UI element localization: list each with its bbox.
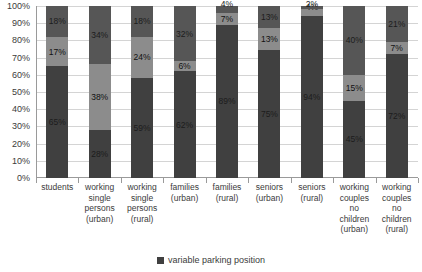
bar-segment-label: 13%	[261, 35, 278, 44]
bar-slot: 75%13%13%	[248, 6, 290, 178]
x-axis-category-label: families (rural)	[206, 182, 248, 248]
bar-segment[interactable]: 17%	[46, 37, 68, 66]
bar-segment[interactable]: 59%	[131, 78, 153, 178]
chart-legend: variable parking position	[0, 252, 422, 268]
bar-segment-label: 15%	[346, 83, 363, 92]
y-axis-tick-label: 70%	[12, 53, 30, 62]
bar-segment-label: 7%	[221, 14, 233, 23]
bar-segment-label: 13%	[261, 13, 278, 22]
x-axis-labels: studentsworking single persons (urban)wo…	[36, 182, 418, 248]
x-axis-tick	[418, 178, 419, 183]
y-axis-tick-label: 100%	[7, 2, 30, 11]
bar-segment[interactable]: 18%	[46, 6, 68, 37]
stacked-bar[interactable]: 72%7%21%	[386, 6, 408, 178]
bar-slot: 65%17%18%	[36, 6, 78, 178]
bar-segment[interactable]: 94%	[301, 16, 323, 178]
stacked-bar-chart: 100%90%80%70%60%50%40%30%20%10%0% 65%17%…	[0, 0, 422, 272]
y-axis-tick-label: 50%	[12, 88, 30, 97]
bar-segment-label: 75%	[261, 110, 278, 119]
bar-segment-label: 18%	[134, 17, 151, 26]
y-axis-tick-label: 0%	[17, 174, 30, 183]
stacked-bar[interactable]: 28%38%34%	[89, 6, 111, 178]
bar-slot: 28%38%34%	[78, 6, 120, 178]
bar-segment[interactable]: 28%	[89, 130, 111, 178]
bar-segment-label: 59%	[134, 123, 151, 132]
bar-segment[interactable]: 21%	[386, 6, 408, 42]
bar-segment[interactable]: 24%	[131, 37, 153, 78]
bar-segment[interactable]: 75%	[258, 50, 280, 178]
bar-segment-label: 24%	[134, 53, 151, 62]
bar-slot: 45%15%40%	[333, 6, 375, 178]
plot-area: 65%17%18%28%38%34%59%24%18%62%6%32%89%7%…	[36, 6, 418, 178]
stacked-bar[interactable]: 94%4%2%	[301, 6, 323, 178]
bar-segment-label: 6%	[178, 62, 190, 71]
y-axis-tick-label: 40%	[12, 105, 30, 114]
bar-segment[interactable]: 62%	[174, 71, 196, 178]
bar-segment-label: 40%	[346, 36, 363, 45]
bar-slot: 62%6%32%	[163, 6, 205, 178]
y-axis-tick-label: 60%	[12, 70, 30, 79]
bar-segment[interactable]: 13%	[258, 6, 280, 28]
bar-segment[interactable]: 15%	[343, 75, 365, 101]
bar-segment-label: 2%	[306, 0, 318, 9]
bar-segment-label: 28%	[91, 149, 108, 158]
bar-segment[interactable]: 45%	[343, 101, 365, 178]
stacked-bar[interactable]: 59%24%18%	[131, 6, 153, 178]
bar-slot: 72%7%21%	[376, 6, 418, 178]
bar-segment-label: 45%	[346, 135, 363, 144]
bar-segment-label: 32%	[176, 29, 193, 38]
bar-slot: 59%24%18%	[121, 6, 163, 178]
x-axis-category-label: working single persons (rural)	[121, 182, 163, 248]
bar-segment[interactable]: 89%	[216, 25, 238, 178]
bar-segment-label: 34%	[91, 31, 108, 40]
bar-segment-label: 21%	[388, 20, 405, 29]
x-axis-category-label: working couples no children (rural)	[376, 182, 418, 248]
bar-segment[interactable]: 2%	[301, 6, 323, 9]
bar-segment-label: 7%	[391, 44, 403, 53]
bar-segment-label: 72%	[388, 112, 405, 121]
y-axis-tick-label: 30%	[12, 122, 30, 131]
bar-group: 65%17%18%28%38%34%59%24%18%62%6%32%89%7%…	[36, 6, 418, 178]
bar-segment-label: 17%	[49, 47, 66, 56]
legend-label: variable parking position	[168, 255, 265, 265]
x-axis-category-label: seniors (rural)	[291, 182, 333, 248]
stacked-bar[interactable]: 45%15%40%	[343, 6, 365, 178]
legend-item[interactable]: variable parking position	[157, 255, 265, 265]
bar-segment[interactable]: 7%	[386, 42, 408, 54]
bar-segment[interactable]: 38%	[89, 64, 111, 129]
x-axis-category-label: working single persons (urban)	[78, 182, 120, 248]
bar-segment-label: 94%	[303, 93, 320, 102]
bar-segment[interactable]: 72%	[386, 54, 408, 178]
bar-segment[interactable]: 40%	[343, 6, 365, 75]
legend-swatch-icon	[157, 257, 164, 264]
y-axis-labels: 100%90%80%70%60%50%40%30%20%10%0%	[0, 6, 33, 178]
bar-segment[interactable]: 7%	[216, 13, 238, 25]
y-axis-tick-label: 80%	[12, 36, 30, 45]
bar-segment-label: 89%	[218, 97, 235, 106]
x-axis-category-label: families (urban)	[163, 182, 205, 248]
y-axis-tick-label: 20%	[12, 139, 30, 148]
stacked-bar[interactable]: 62%6%32%	[174, 6, 196, 178]
stacked-bar[interactable]: 89%7%4%	[216, 6, 238, 178]
bar-segment[interactable]: 4%	[216, 6, 238, 13]
bar-segment-label: 62%	[176, 120, 193, 129]
y-axis-tick-label: 90%	[12, 19, 30, 28]
y-axis-tick-label: 10%	[12, 156, 30, 165]
bar-slot: 94%4%2%	[291, 6, 333, 178]
x-axis-category-label: students	[36, 182, 78, 248]
stacked-bar[interactable]: 75%13%13%	[258, 6, 280, 178]
bar-segment[interactable]: 13%	[258, 28, 280, 50]
bar-slot: 89%7%4%	[206, 6, 248, 178]
bar-segment[interactable]: 4%	[301, 9, 323, 16]
stacked-bar[interactable]: 65%17%18%	[46, 6, 68, 178]
x-axis-category-label: seniors (urban)	[248, 182, 290, 248]
bar-segment[interactable]: 18%	[131, 6, 153, 37]
bar-segment[interactable]: 32%	[174, 6, 196, 61]
bar-segment[interactable]: 65%	[46, 66, 68, 178]
bar-segment[interactable]: 34%	[89, 6, 111, 64]
bar-segment-label: 65%	[49, 118, 66, 127]
bar-segment[interactable]: 6%	[174, 61, 196, 71]
x-axis-category-label: working couples no children (urban)	[333, 182, 375, 248]
bar-segment-label: 38%	[91, 93, 108, 102]
bar-segment-label: 4%	[221, 0, 233, 9]
